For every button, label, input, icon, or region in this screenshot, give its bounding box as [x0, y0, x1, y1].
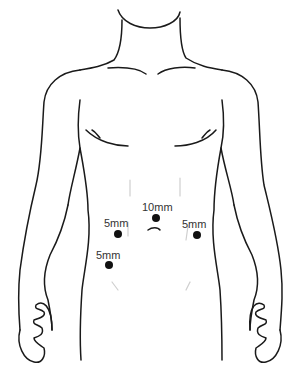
torso-outline	[0, 0, 301, 377]
hand-right	[250, 303, 281, 362]
arm-right-outer	[222, 70, 282, 330]
torso-right-side	[213, 148, 222, 360]
clavicle-left	[108, 68, 146, 74]
neck-right	[180, 18, 222, 70]
port-dot-left-lower	[105, 261, 113, 269]
chin-line	[118, 10, 180, 28]
port-dot-umbilical	[152, 214, 160, 222]
port-label-umbilical: 10mm	[142, 202, 173, 213]
torso-right-upper	[221, 100, 234, 205]
port-label-left-upper: 5mm	[104, 218, 128, 229]
port-label-left-lower: 5mm	[96, 250, 120, 261]
torso-left-side	[80, 148, 89, 360]
groin-line-left	[112, 282, 118, 290]
pectoral-right	[175, 130, 216, 146]
torso-left-upper	[68, 100, 80, 205]
arm-right-inner	[234, 205, 258, 330]
clavicle-right	[158, 67, 195, 74]
umbilicus	[148, 228, 160, 230]
hand-left	[19, 303, 52, 362]
port-dot-right-upper	[193, 231, 201, 239]
torso-diagram: 10mm 5mm 5mm 5mm	[0, 0, 301, 377]
arm-left-inner	[44, 205, 68, 330]
port-label-right-upper: 5mm	[182, 219, 206, 230]
groin-line-right	[186, 282, 190, 290]
port-dot-left-upper	[114, 230, 122, 238]
arm-left-outer	[19, 70, 81, 330]
pectoral-left	[86, 130, 128, 146]
neck-left	[80, 20, 122, 70]
